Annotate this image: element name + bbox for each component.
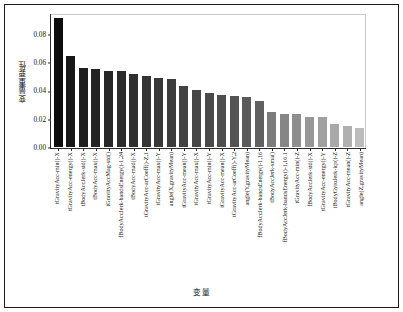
x-axis-label-cell: tBodyAcc-max()-X (89, 152, 102, 272)
bar (117, 71, 126, 147)
bar-cell (228, 14, 241, 147)
y-axis-tick-mark (48, 63, 51, 64)
x-axis-tick-mark (190, 148, 203, 151)
x-axis-tick-label: tGravityAcc-min()-X (54, 152, 60, 204)
bar (305, 117, 314, 147)
x-axis-label-cell: tGravityAcc-mean()-X (215, 152, 228, 272)
bar (129, 74, 138, 147)
x-axis-label-cell: tBodyGyroJerk-iqr()-Z (329, 152, 342, 272)
bar (330, 124, 339, 147)
bar-cell (266, 14, 279, 147)
x-axis-tick-mark (65, 148, 78, 151)
x-axis-tick-mark (253, 148, 266, 151)
bar-cell (115, 14, 128, 147)
bar (343, 126, 352, 147)
x-axis-tick-label: tGravityAcc-mean()-Z (345, 152, 351, 207)
bar (280, 114, 289, 147)
x-axis-tick-label: tBodyAccJerk-std()-X (80, 152, 86, 207)
x-axis-tick-mark (127, 148, 140, 151)
x-axis-tick-mark (215, 148, 228, 151)
bar-cell (190, 14, 203, 147)
bar-cell (328, 14, 341, 147)
x-axis-tick-label: tGravityAcc-mean()-Y (181, 152, 187, 208)
bar (79, 68, 88, 147)
x-axis-title: 变量 (0, 286, 403, 297)
bar-cell (165, 14, 178, 147)
x-axis-tick-label: tBodyAcc-mad()-X (130, 152, 136, 200)
x-axis-tick-mark (153, 148, 166, 151)
plot-wrapper: 0.000.020.040.060.08 (50, 14, 366, 149)
x-axis-label-cell: tGravityAcc-mean()-Z (342, 152, 355, 272)
x-axis-tick-label: tGravityAccMag-std() (105, 152, 111, 207)
bar-cell (253, 14, 266, 147)
bar (104, 71, 113, 147)
x-axis-tick-label: tGravityAcc-min()-Z (294, 152, 300, 203)
x-axis-tick-mark (165, 148, 178, 151)
y-axis-tick-mark (48, 148, 51, 149)
bar-cell (240, 14, 253, 147)
bar (318, 117, 327, 147)
bar (54, 18, 63, 147)
x-axis-tick-label: tGravityAcc-mean()-X (219, 152, 225, 208)
x-axis-label-cell: fBodyAccJerk-bandsEnergy()-1,24 (114, 152, 127, 272)
x-axis-tick-mark (90, 148, 103, 151)
x-axis-tick-label: fBodyAccJerk-bandsEnergy()-1,16 (257, 152, 263, 238)
x-axis-label-cell: tGravityAcc-arCoeff()-Y,2 (228, 152, 241, 272)
bar (91, 69, 100, 147)
bar-cell (102, 14, 115, 147)
x-axis-label-cell: fBodyAccJerk-std()-X (304, 152, 317, 272)
x-axis-tick-label: tGravityAcc-arCoeff()-Y,2 (231, 152, 237, 217)
y-axis-tick-label: 0.02 (33, 116, 46, 123)
x-axis-tick-label: tGravityAcc-energy()-X (67, 152, 73, 211)
y-axis-tick-mark (48, 119, 51, 120)
x-axis-tick-label: tGravityAcc-arCoeff()-Z,1 (143, 152, 149, 217)
x-axis-tick-label: fBodyAccJerk-bandsEnergy()-1,16.1 (282, 152, 288, 242)
bar-cell (77, 14, 90, 147)
bar-cell (52, 14, 65, 147)
x-axis-tick-mark (354, 148, 367, 151)
x-axis-tick-label: tBodyAccJerk-sma() (269, 152, 275, 203)
x-axis-label-cell: tGravityAcc-energy()-X (64, 152, 77, 272)
x-axis-label-cell: tGravityAcc-max()-Y (152, 152, 165, 272)
x-axis-label-cell: tGravityAcc-min()-Y (203, 152, 216, 272)
x-axis-label-cell: tBodyAccJerk-std()-X (76, 152, 89, 272)
bar-series (52, 14, 366, 147)
variable-importance-chart-figure: 变量重要性 0.000.020.040.060.08 tGravityAcc-m… (0, 0, 403, 312)
bar-cell (316, 14, 329, 147)
x-axis-tick-mark (266, 148, 279, 151)
plot-area: 0.000.020.040.060.08 (50, 14, 366, 149)
bar (142, 76, 151, 147)
x-axis-tick-label: angle(Z,gravityMean) (358, 152, 364, 206)
bar (355, 128, 364, 147)
x-axis-label-cell: tGravityAcc-energy()-Y (316, 152, 329, 272)
bar-cell (178, 14, 191, 147)
x-axis-label-cell: tGravityAcc-max()-X (190, 152, 203, 272)
x-axis-label-cell: tGravityAcc-arCoeff()-Z,1 (139, 152, 152, 272)
x-axis-tick-mark (303, 148, 316, 151)
x-axis-tick-label: tGravityAcc-max()-Y (155, 152, 161, 205)
y-axis-tick-label: 0.04 (33, 88, 46, 95)
x-axis-tick-mark (140, 148, 153, 151)
bar-cell (140, 14, 153, 147)
bar (230, 96, 239, 147)
y-axis-tick-label: 0.06 (33, 60, 46, 67)
x-axis-tick-labels: tGravityAcc-min()-XtGravityAcc-energy()-… (51, 152, 367, 272)
y-axis-tick-mark (48, 35, 51, 36)
y-axis-tick-label: 0.08 (33, 32, 46, 39)
x-axis-label-cell: angle(Z,gravityMean) (354, 152, 367, 272)
x-axis-label-cell: tGravityAccMag-std() (102, 152, 115, 272)
x-axis-tick-mark (341, 148, 354, 151)
bar (242, 97, 251, 147)
x-axis-tick-mark (278, 148, 291, 151)
bar-cell (291, 14, 304, 147)
x-axis-tick-label: fBodyAccJerk-std()-X (307, 152, 313, 207)
bar (292, 114, 301, 147)
bar (192, 90, 201, 147)
x-axis-tick-label: angle(X,gravityMean) (168, 152, 174, 206)
bar-cell (203, 14, 216, 147)
x-axis-label-cell: tGravityAcc-min()-Z (291, 152, 304, 272)
x-axis-title-text: 变量 (193, 288, 210, 297)
bar-cell (341, 14, 354, 147)
x-axis-tick-mark (228, 148, 241, 151)
x-axis-tick-label: tBodyAcc-max()-X (92, 152, 98, 200)
